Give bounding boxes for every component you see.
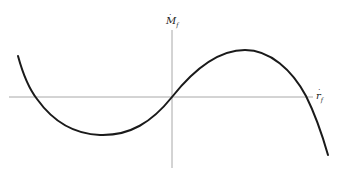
dot-accent: · <box>169 11 172 19</box>
x-axis-label: · rf <box>316 90 323 103</box>
y-axis-label: · Mf <box>166 15 178 28</box>
dot-accent: · <box>318 86 321 94</box>
response-curve <box>18 50 328 155</box>
